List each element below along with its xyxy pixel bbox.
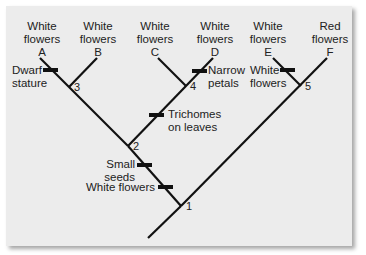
taxon-d-label: White flowers D (195, 20, 235, 59)
taxon-b-trait: White (78, 20, 118, 33)
node-5-label: 5 (305, 80, 311, 92)
character-text: petals (208, 77, 245, 90)
taxon-a-trait: flowers (22, 33, 62, 46)
taxon-c-id: C (135, 46, 175, 59)
white-flowers-label: White flowers (80, 181, 155, 194)
taxon-f-trait: Red (310, 20, 350, 33)
node-2-label: 2 (133, 140, 139, 152)
taxon-a-label: White flowers A (22, 20, 62, 59)
white-flowers-e-label: White flowers (250, 64, 286, 90)
taxon-d-trait: flowers (195, 33, 235, 46)
character-text: flowers (250, 77, 286, 90)
taxon-c-label: White flowers C (135, 20, 175, 59)
taxon-d-id: D (195, 46, 235, 59)
taxon-c-trait: White (135, 20, 175, 33)
character-text: Narrow (208, 64, 245, 77)
taxon-f-label: Red flowers F (310, 20, 350, 59)
taxon-b-trait: flowers (78, 33, 118, 46)
taxon-a-trait: White (22, 20, 62, 33)
node-1-label: 1 (186, 200, 192, 212)
character-text: Trichomes (168, 108, 221, 121)
character-text: on leaves (168, 121, 221, 134)
taxon-e-label: White flowers E (248, 20, 288, 59)
taxon-f-trait: flowers (310, 33, 350, 46)
taxon-e-trait: flowers (248, 33, 288, 46)
trichomes-bar (149, 113, 164, 117)
character-text: stature (12, 77, 47, 90)
node-3-label: 3 (74, 81, 80, 93)
taxon-d-trait: White (195, 20, 235, 33)
taxon-a-id: A (22, 46, 62, 59)
taxon-e-trait: White (248, 20, 288, 33)
small-seeds-bar (137, 163, 152, 167)
narrow-petals-bar (192, 69, 207, 73)
trichomes-label: Trichomes on leaves (168, 108, 221, 134)
taxon-e-id: E (248, 46, 288, 59)
taxon-b-id: B (78, 46, 118, 59)
character-text: Dwarf (12, 64, 47, 77)
character-text: White (250, 64, 286, 77)
taxon-b-label: White flowers B (78, 20, 118, 59)
node-4-label: 4 (190, 80, 196, 92)
dwarf-stature-label: Dwarf stature (12, 64, 47, 90)
white-flowers-bar (158, 185, 173, 189)
taxon-c-trait: flowers (135, 33, 175, 46)
taxon-f-id: F (310, 46, 350, 59)
narrow-petals-label: Narrow petals (208, 64, 245, 90)
